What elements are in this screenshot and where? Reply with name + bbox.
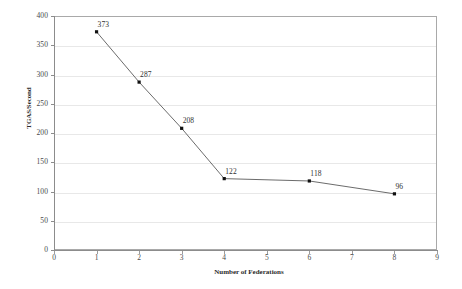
y-tick-mark: [51, 16, 54, 17]
y-tick-label: 350: [4, 40, 48, 49]
gridline: [55, 76, 436, 77]
x-tick-mark: [182, 251, 183, 254]
x-axis-line: [54, 250, 438, 251]
y-tick-mark: [51, 162, 54, 163]
y-tick-mark: [51, 75, 54, 76]
x-tick-label: 6: [297, 253, 321, 262]
x-tick-label: 8: [382, 253, 406, 262]
gridline: [55, 163, 436, 164]
x-tick-mark: [437, 251, 438, 254]
x-tick-label: 4: [212, 253, 236, 262]
x-tick-label: 1: [85, 253, 109, 262]
x-tick-mark: [267, 251, 268, 254]
data-point-label: 287: [140, 70, 152, 79]
data-point-label: 208: [183, 116, 195, 125]
x-tick-mark: [54, 251, 55, 254]
y-tick-mark: [51, 133, 54, 134]
x-tick-label: 5: [255, 253, 279, 262]
plot-area: [54, 16, 437, 250]
x-tick-mark: [309, 251, 310, 254]
line-chart: 050100150200250300350400 0123456789 TGAS…: [0, 0, 462, 289]
y-tick-mark: [51, 221, 54, 222]
x-tick-mark: [394, 251, 395, 254]
y-tick-label: 400: [4, 11, 48, 20]
y-axis-title: TGAS/Second: [25, 68, 33, 148]
y-tick-label: 150: [4, 157, 48, 166]
y-tick-mark: [51, 104, 54, 105]
y-axis-line: [54, 16, 55, 251]
x-tick-label: 9: [425, 253, 449, 262]
data-point-label: 122: [225, 167, 237, 176]
data-point-label: 118: [310, 169, 321, 178]
x-tick-label: 0: [42, 253, 66, 262]
y-tick-mark: [51, 45, 54, 46]
x-tick-mark: [139, 251, 140, 254]
x-tick-mark: [97, 251, 98, 254]
y-tick-mark: [51, 192, 54, 193]
y-tick-label: 100: [4, 187, 48, 196]
y-tick-label: 50: [4, 216, 48, 225]
x-axis-title: Number of Federations: [0, 268, 462, 276]
x-tick-label: 3: [170, 253, 194, 262]
gridline: [55, 46, 436, 47]
x-tick-mark: [352, 251, 353, 254]
x-tick-label: 7: [340, 253, 364, 262]
x-tick-label: 2: [127, 253, 151, 262]
gridline: [55, 222, 436, 223]
data-point-label: 373: [98, 20, 110, 29]
data-point-label: 96: [395, 182, 403, 191]
gridline: [55, 134, 436, 135]
gridline: [55, 193, 436, 194]
gridline: [55, 105, 436, 106]
x-tick-mark: [224, 251, 225, 254]
